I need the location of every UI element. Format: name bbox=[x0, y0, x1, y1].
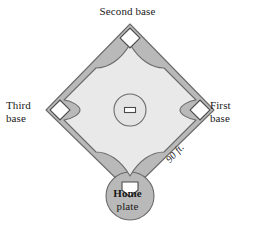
third-base-label: Third base bbox=[6, 99, 48, 124]
second-base-label-text: Second base bbox=[100, 5, 156, 17]
third-base-label-line2: base bbox=[6, 112, 48, 125]
baseball-diamond-figure: Second base Third base First base Home p… bbox=[0, 0, 255, 235]
third-base-label-line1: Third bbox=[6, 99, 31, 111]
first-base-label-line2: base bbox=[210, 112, 255, 125]
first-base-label: First base bbox=[210, 99, 255, 124]
home-plate-label: Home plate bbox=[0, 187, 255, 212]
home-plate-label-line1: Home bbox=[0, 187, 255, 200]
second-base-label: Second base bbox=[0, 5, 255, 18]
home-plate-label-line2: plate bbox=[0, 200, 255, 213]
first-base-label-line1: First bbox=[210, 99, 231, 111]
pitchers-rubber bbox=[125, 108, 136, 113]
